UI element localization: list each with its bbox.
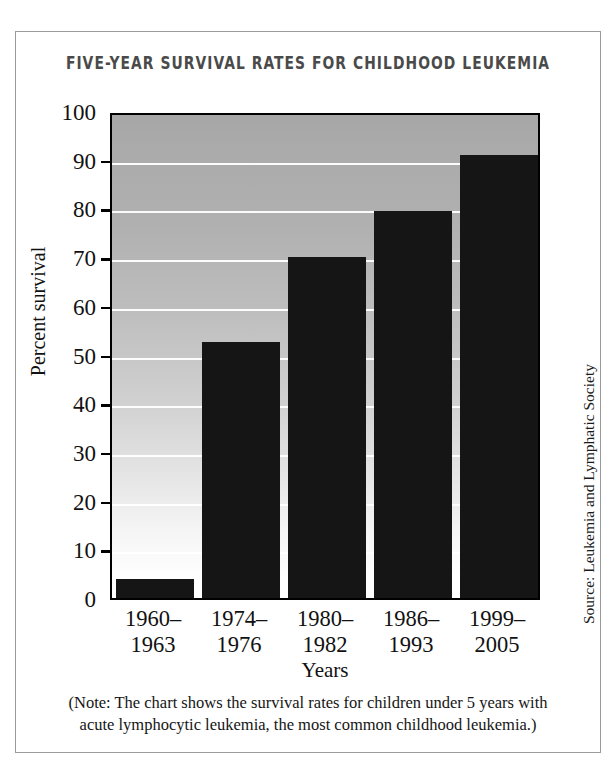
x-tick-label-line: 1976 — [196, 632, 282, 658]
x-tick-label: 1974–1976 — [196, 606, 282, 658]
y-tick-label: 50 — [26, 345, 96, 368]
y-tick-label: 30 — [26, 442, 96, 465]
y-tick-label: 90 — [26, 150, 96, 173]
y-tick-label: 100 — [26, 101, 96, 124]
x-tick-label: 1986–1993 — [368, 606, 454, 658]
y-tick-mark — [101, 404, 112, 407]
bar — [202, 342, 280, 598]
y-tick-mark — [101, 453, 112, 456]
source-note: Source: Leukemia and Lymphatic Society — [580, 364, 598, 624]
y-tick-mark — [101, 502, 112, 505]
chart-footnote: (Note: The chart shows the survival rate… — [30, 692, 586, 736]
y-tick-mark — [101, 209, 112, 212]
y-tick-mark — [101, 307, 112, 310]
y-tick-label: 70 — [26, 247, 96, 270]
y-tick-label: 0 — [26, 588, 96, 611]
x-tick-label-line: 1980– — [282, 606, 368, 632]
x-axis-title: Years — [110, 658, 540, 683]
bar — [288, 257, 366, 598]
y-tick-label: 80 — [26, 198, 96, 221]
x-tick-label-line: 1993 — [368, 632, 454, 658]
x-tick-label-line: 1963 — [110, 632, 196, 658]
footnote-line-2: acute lymphocytic leukemia, the most com… — [30, 714, 586, 736]
y-tick-label: 60 — [26, 296, 96, 319]
y-tick-label: 20 — [26, 491, 96, 514]
y-tick-label: 40 — [26, 393, 96, 416]
x-tick-label-line: 2005 — [454, 632, 540, 658]
y-tick-mark — [101, 258, 112, 261]
x-tick-label-line: 1999– — [454, 606, 540, 632]
y-tick-mark — [101, 161, 112, 164]
x-tick-label-line: 1986– — [368, 606, 454, 632]
bar — [374, 211, 452, 598]
x-tick-label-line: 1982 — [282, 632, 368, 658]
bar — [116, 579, 194, 598]
chart-title: FIVE-YEAR SURVIVAL RATES FOR CHILDHOOD L… — [37, 53, 579, 73]
plot-area — [110, 113, 540, 600]
x-tick-label: 1980–1982 — [282, 606, 368, 658]
bar — [460, 155, 538, 598]
x-tick-label-line: 1960– — [110, 606, 196, 632]
y-tick-mark — [101, 550, 112, 553]
x-tick-label: 1999–2005 — [454, 606, 540, 658]
footnote-line-1: (Note: The chart shows the survival rate… — [30, 692, 586, 714]
x-tick-label: 1960–1963 — [110, 606, 196, 658]
y-tick-label: 10 — [26, 539, 96, 562]
y-tick-mark — [101, 356, 112, 359]
x-tick-label-line: 1974– — [196, 606, 282, 632]
